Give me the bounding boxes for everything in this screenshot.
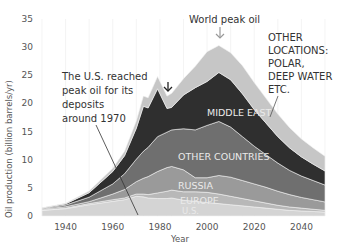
svg-text:DEEP WATER: DEEP WATER: [268, 71, 332, 82]
us-peak-annotation: The U.S. reached peak oil for its deposi…: [61, 71, 148, 124]
label-us: U.S.: [182, 206, 199, 216]
dip-arrow-icon: [164, 82, 172, 91]
y-tick-label: 35: [22, 14, 33, 24]
x-tick-label: 2020: [243, 222, 266, 232]
world-peak-arrow-icon: [216, 27, 224, 38]
svg-text:POLAR,: POLAR,: [268, 58, 305, 69]
x-tick-label: 1980: [148, 222, 171, 232]
x-tick-label: 2000: [196, 222, 219, 232]
other-locations-annotation: OTHER LOCATIONS: POLAR, DEEP WATER ETC.: [268, 32, 332, 95]
label-other-countries: OTHER COUNTRIES: [178, 151, 269, 162]
label-europe: EUROPE: [180, 195, 219, 206]
label-middle-east: MIDDLE EAST: [207, 107, 271, 118]
y-tick-label: 15: [22, 127, 33, 137]
x-axis-label: Year: [170, 234, 190, 244]
y-axis-label: Oil production (billion barrels/yr): [4, 80, 14, 218]
svg-text:ETC.: ETC.: [268, 84, 290, 95]
x-tick-label: 1940: [54, 222, 77, 232]
y-tick-label: 0: [27, 211, 33, 221]
svg-text:LOCATIONS:: LOCATIONS:: [268, 45, 328, 56]
world-peak-annotation: World peak oil: [189, 14, 260, 25]
y-tick-label: 20: [22, 98, 34, 108]
svg-text:deposits: deposits: [62, 99, 104, 110]
y-tick-label: 10: [22, 155, 34, 165]
oil-production-chart: 05101520253035 194019601980200020202040 …: [0, 0, 339, 250]
y-tick-label: 25: [22, 70, 33, 80]
y-tick-label: 5: [27, 183, 33, 193]
svg-text:OTHER: OTHER: [268, 32, 303, 43]
svg-text:around 1970: around 1970: [62, 113, 126, 124]
y-axis-ticks: 05101520253035: [22, 14, 34, 221]
x-tick-label: 2040: [290, 222, 313, 232]
x-tick-label: 1960: [101, 222, 124, 232]
label-russia: RUSSIA: [178, 180, 213, 191]
x-axis-ticks: 194019601980200020202040: [54, 222, 313, 232]
svg-text:The U.S. reached: The U.S. reached: [61, 71, 148, 82]
y-tick-label: 30: [22, 42, 34, 52]
svg-text:peak oil for its: peak oil for its: [62, 85, 133, 96]
